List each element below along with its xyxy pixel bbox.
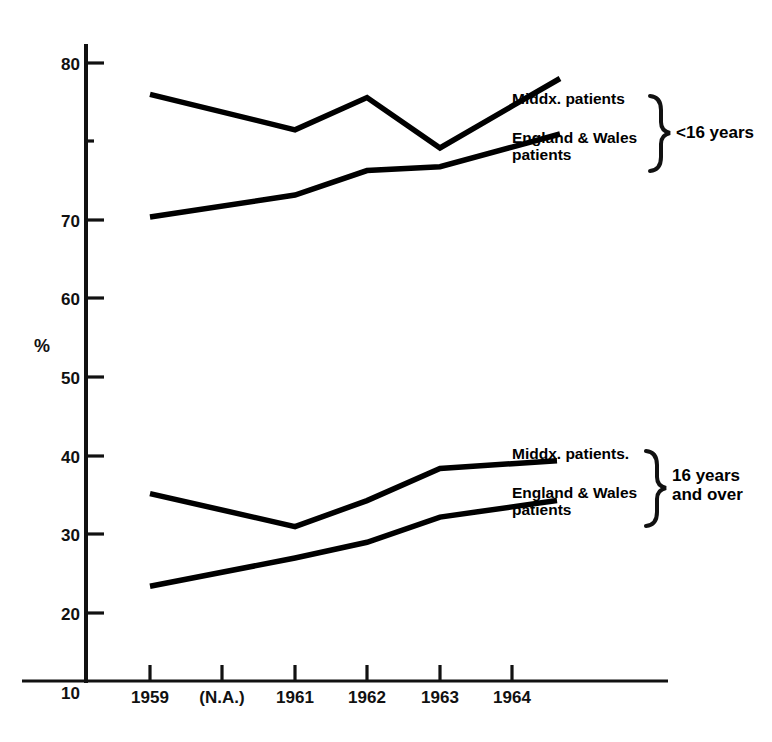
y-tick-label-80: 80: [61, 55, 80, 74]
y-tick-label-10: 10: [61, 684, 80, 703]
x-tick-label-1963: 1963: [421, 688, 459, 707]
x-tick-label-1964: 1964: [493, 688, 531, 707]
line-chart-plot: 80 70 60 50 40 30 20 10 % 1959 (N.A.) 19…: [0, 0, 772, 742]
legend-bottom-brace-line2: and over: [672, 485, 743, 504]
y-axis-ticks: [86, 63, 104, 613]
legend-top-middx-label: Middx. patients: [512, 90, 625, 107]
y-tick-label-60: 60: [61, 290, 80, 309]
y-tick-label-70: 70: [61, 212, 80, 231]
x-tick-label-na: (N.A.): [199, 688, 244, 707]
x-axis-ticks: [150, 665, 512, 681]
legend-bottom-england-wales-line1: England & Wales: [512, 484, 637, 501]
legend-top-brace-label: <16 years: [676, 123, 754, 142]
series-line-2: [150, 461, 557, 527]
legend-bottom-middx-label: Middx. patients.: [512, 445, 629, 462]
legend-top-england-wales-label: England & Wales patients: [512, 129, 637, 164]
x-axis-tick-labels: 1959 (N.A.) 1961 1962 1963 1964: [131, 688, 531, 707]
series-line-0: [150, 79, 560, 148]
y-tick-label-30: 30: [61, 526, 80, 545]
legend-bottom-england-wales-line2: patients: [512, 501, 637, 518]
chart-figure: . . . . . .. ... 80 70 60 50 40: [0, 0, 772, 742]
y-tick-label-20: 20: [61, 605, 80, 624]
legend-bottom-brace-label: 16 years and over: [672, 466, 743, 505]
legend-bottom-england-wales-label: England & Wales patients: [512, 484, 637, 519]
legend-top-england-wales-line1: England & Wales: [512, 129, 637, 146]
brace-under-16: [650, 96, 670, 171]
brace-16-and-over: [646, 451, 666, 526]
y-axis-title: %: [34, 336, 50, 356]
x-tick-label-1962: 1962: [348, 688, 386, 707]
data-series-layer: [150, 79, 560, 587]
x-tick-label-1961: 1961: [276, 688, 314, 707]
legend-bottom-brace-line1: 16 years: [672, 466, 743, 485]
y-axis-tick-labels: 80 70 60 50 40 30 20 10: [61, 55, 80, 703]
x-tick-label-1959: 1959: [131, 688, 169, 707]
legend-top-england-wales-line2: patients: [512, 146, 637, 163]
series-line-1: [150, 134, 560, 217]
series-line-3: [150, 501, 557, 587]
y-tick-label-40: 40: [61, 448, 80, 467]
y-tick-label-50: 50: [61, 369, 80, 388]
